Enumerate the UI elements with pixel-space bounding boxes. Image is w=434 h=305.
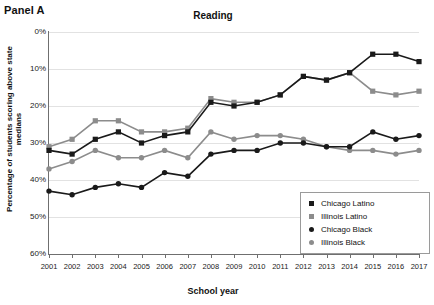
legend-swatch (309, 201, 314, 206)
data-point (347, 144, 352, 149)
data-point (393, 92, 398, 97)
legend-label: Illinois Black (321, 238, 365, 247)
legend-swatch (309, 227, 314, 232)
data-point (370, 129, 375, 134)
data-point (416, 148, 421, 153)
square-marker-icon (306, 214, 316, 219)
data-point (231, 137, 236, 142)
legend-swatch (309, 240, 314, 245)
data-point (393, 151, 398, 156)
data-point (278, 133, 283, 138)
data-point (93, 137, 98, 142)
data-point (139, 140, 144, 145)
data-point (254, 148, 259, 153)
data-point (255, 100, 260, 105)
circle-marker-icon (306, 240, 316, 245)
data-point (231, 103, 236, 108)
data-point (208, 151, 213, 156)
legend-label: Chicago Latino (321, 199, 374, 208)
data-point (324, 78, 329, 83)
data-point (93, 118, 98, 123)
data-point (370, 89, 375, 94)
data-point (162, 148, 167, 153)
data-point (116, 155, 121, 160)
data-point (347, 70, 352, 75)
data-point (162, 133, 167, 138)
data-point (139, 185, 144, 190)
data-point (46, 166, 51, 171)
data-point (278, 140, 283, 145)
data-point (416, 59, 421, 64)
data-point (69, 192, 74, 197)
data-point (70, 137, 75, 142)
legend-item: Chicago Black (306, 223, 424, 236)
data-point (254, 133, 259, 138)
legend-item: Chicago Latino (306, 197, 424, 210)
data-point (185, 174, 190, 179)
data-point (139, 129, 144, 134)
data-point (185, 129, 190, 134)
data-point (301, 74, 306, 79)
data-point (139, 155, 144, 160)
data-point (93, 148, 98, 153)
chart-legend: Chicago LatinoIllinois LatinoChicago Bla… (300, 192, 430, 254)
square-marker-icon (306, 201, 316, 206)
legend-item: Illinois Latino (306, 210, 424, 223)
legend-swatch (309, 214, 314, 219)
data-point (208, 129, 213, 134)
data-point (46, 148, 51, 153)
data-point (46, 188, 51, 193)
data-point (185, 155, 190, 160)
data-point (324, 144, 329, 149)
legend-label: Illinois Latino (321, 212, 367, 221)
data-point (231, 148, 236, 153)
data-point (93, 185, 98, 190)
data-point (393, 137, 398, 142)
data-point (116, 129, 121, 134)
data-point (416, 133, 421, 138)
circle-marker-icon (306, 227, 316, 232)
data-point (301, 140, 306, 145)
data-point (162, 170, 167, 175)
data-point (116, 181, 121, 186)
data-point (69, 159, 74, 164)
data-point (393, 52, 398, 57)
legend-item: Illinois Black (306, 236, 424, 249)
legend-label: Chicago Black (321, 225, 372, 234)
data-point (370, 52, 375, 57)
data-point (416, 89, 421, 94)
data-point (116, 118, 121, 123)
data-point (208, 100, 213, 105)
data-point (70, 152, 75, 157)
data-point (370, 148, 375, 153)
data-point (278, 92, 283, 97)
